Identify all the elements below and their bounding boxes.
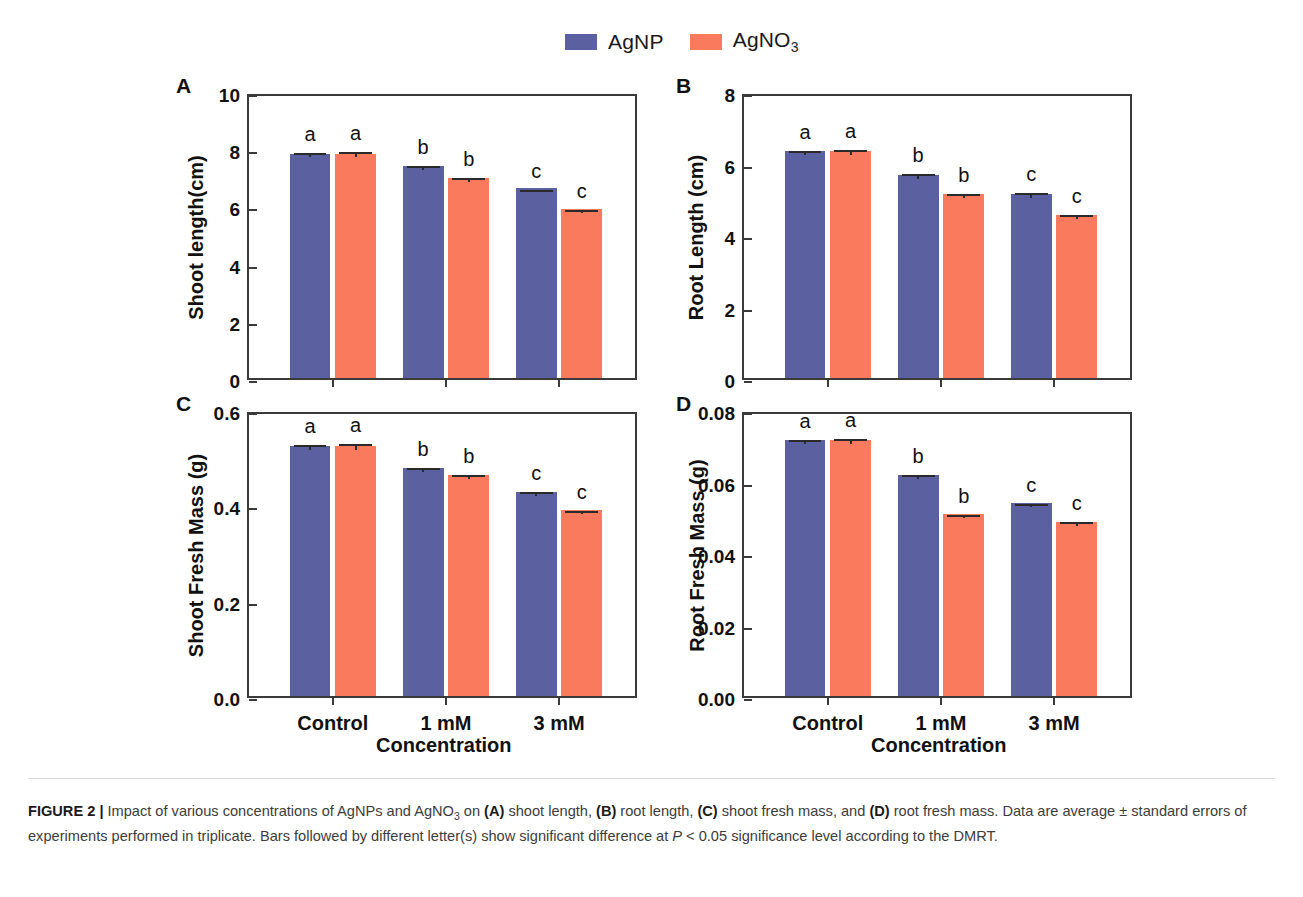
error-bar-cap (947, 515, 980, 517)
caption-text-2: on (460, 803, 484, 819)
y-tick-mark (744, 485, 752, 487)
x-tick-mark (940, 696, 942, 705)
y-tick-mark (744, 628, 752, 630)
y-tick-mark (744, 413, 752, 415)
x-tick-mark (1053, 696, 1055, 705)
significance-letter: b (958, 485, 969, 508)
error-bar-cap (902, 475, 935, 477)
caption-text-1: Impact of various concentrations of AgNP… (103, 803, 453, 819)
x-tick-label: 3 mM (1028, 712, 1079, 735)
y-tick-label: 0.08 (698, 403, 744, 425)
caption-bold-c: (C) (697, 803, 717, 819)
caption-text-7: < 0.05 significance level according to t… (682, 828, 998, 844)
figure-caption: FIGURE 2 | Impact of various concentrati… (28, 800, 1278, 849)
bar-d-agnp-control (785, 440, 826, 696)
panel-letter-d: D (676, 392, 691, 416)
bar-d-agno3-control (830, 440, 871, 696)
significance-letter: c (1026, 474, 1036, 497)
caption-italic-p: P (672, 828, 682, 844)
x-tick-label: 1 mM (915, 712, 966, 735)
bar-d-agnp-3mm (1011, 503, 1052, 696)
y-tick-label: 0.00 (698, 689, 744, 711)
caption-divider (28, 778, 1275, 779)
caption-text-5: shoot fresh mass, and (718, 803, 870, 819)
panel-d: DRoot Fresh Mass (g)0.000.020.040.060.08… (0, 0, 1303, 780)
x-tick-label: Control (792, 712, 863, 735)
plot-area-d: 0.000.020.040.060.08Control1 mM3 mMabcab… (742, 412, 1132, 698)
bar-d-agno3-1mm (943, 514, 984, 696)
y-tick-label: 0.06 (698, 475, 744, 497)
bar-d-agnp-1mm (898, 475, 939, 696)
error-bar-cap (789, 440, 822, 442)
figure-area: AgNP AgNO3 AShoot length(cm)0246810abcab… (0, 0, 1303, 780)
error-bar-cap (1060, 522, 1093, 524)
caption-text-3: shoot length, (504, 803, 596, 819)
caption-bold-b: (B) (596, 803, 616, 819)
caption-figure-label: FIGURE 2 (28, 803, 95, 819)
caption-text-4: root length, (616, 803, 697, 819)
significance-letter: b (913, 445, 924, 468)
y-tick-mark (744, 699, 752, 701)
significance-letter: a (799, 410, 810, 433)
x-tick-mark (827, 696, 829, 705)
significance-letter: a (845, 409, 856, 432)
significance-letter: c (1072, 492, 1082, 515)
caption-bold-d: (D) (869, 803, 889, 819)
caption-bold-a: (A) (484, 803, 504, 819)
x-axis-title-d: Concentration (871, 734, 1007, 757)
error-bar-cap (1015, 504, 1048, 506)
error-bar-cap (834, 439, 867, 441)
y-tick-mark (744, 556, 752, 558)
bar-d-agno3-3mm (1056, 522, 1097, 696)
y-tick-label: 0.02 (698, 618, 744, 640)
y-tick-label: 0.04 (698, 546, 744, 568)
